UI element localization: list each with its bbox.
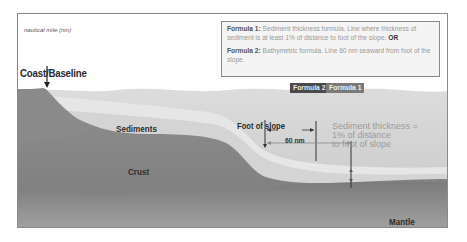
formula-or: OR — [388, 34, 398, 41]
sediments-label: Sediments — [116, 124, 157, 134]
formula1-title: Formula 1: — [227, 25, 261, 32]
formula2-title: Formula 2: — [227, 47, 261, 54]
foot-of-slope-label: Foot of slope — [237, 121, 285, 131]
formula-legend-box: Formula 1: Sediment thickness formula. L… — [221, 21, 440, 77]
crust-label: Crust — [128, 167, 149, 177]
mantle-label: Mantle — [389, 217, 415, 227]
formula2-description: Formula 2: Bathymetric formula. Line 60 … — [227, 47, 434, 64]
sediment-thickness-line3: to foot of slope — [332, 140, 448, 149]
formula2-tag: Formula 2 — [290, 83, 328, 93]
sediment-thickness-label: Sediment thickness = 1% of distance to f… — [332, 122, 448, 149]
coast-baseline-label: Coast/Baseline — [20, 67, 87, 79]
formula1-tag: Formula 1 — [326, 83, 364, 93]
diagram-frame: nautical mile (nm) Formula 1: Sediment t… — [17, 13, 448, 228]
formula1-description: Formula 1: Sediment thickness formula. L… — [227, 25, 434, 42]
distance-60nm-label: 60 nm — [285, 137, 305, 144]
unit-label: nautical mile (nm) — [24, 27, 71, 33]
